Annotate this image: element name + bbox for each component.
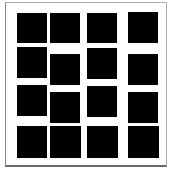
black-square-r4-c2 bbox=[50, 126, 81, 158]
black-square-r3-c1 bbox=[17, 85, 47, 116]
black-square-r4-c3 bbox=[87, 126, 118, 158]
black-square-r2-c4 bbox=[128, 54, 158, 85]
black-square-r4-c4 bbox=[128, 126, 159, 158]
black-square-r1-c1 bbox=[17, 13, 47, 43]
black-square-r4-c1 bbox=[17, 126, 47, 158]
black-square-r2-c2 bbox=[50, 54, 80, 85]
black-square-r1-c3 bbox=[87, 13, 117, 43]
black-square-r3-c2 bbox=[50, 92, 80, 123]
black-square-r2-c3 bbox=[87, 48, 117, 79]
black-square-r1-c2 bbox=[50, 13, 80, 43]
black-square-r3-c4 bbox=[128, 92, 158, 123]
black-square-r3-c3 bbox=[87, 86, 117, 117]
black-square-r2-c1 bbox=[17, 47, 47, 78]
black-square-r1-c4 bbox=[128, 12, 158, 43]
